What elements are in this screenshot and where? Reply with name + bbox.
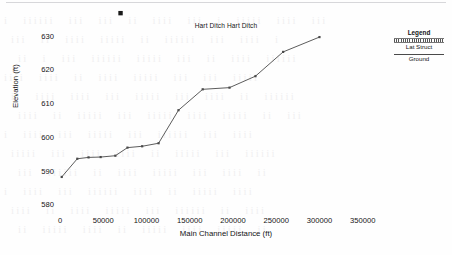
ground-data-point	[100, 156, 102, 158]
ground-data-point	[157, 142, 159, 144]
legend-entry-lat-struct: Lat Struct	[390, 38, 448, 51]
ground-data-point	[282, 51, 284, 53]
legend-label-ground: Ground	[390, 55, 448, 63]
ground-data-point	[254, 75, 256, 77]
ground-data-point	[177, 109, 179, 111]
ground-data-point	[61, 176, 63, 178]
ground-data-point	[141, 145, 143, 147]
legend-title: Legend	[390, 29, 448, 36]
chart-page: i iiiiii iii iii ii iiii iii i iiiii iii…	[0, 0, 452, 255]
legend-box: Legend Lat Struct Ground	[390, 29, 448, 64]
lat-struct-data-point	[118, 11, 122, 15]
ground-data-point	[114, 155, 116, 157]
legend-entry-ground: Ground	[390, 54, 448, 63]
ground-data-point	[87, 156, 89, 158]
ground-data-point	[76, 158, 78, 160]
line-chart: Hart Ditch Hart Ditch Elevation (ft) Mai…	[0, 0, 452, 255]
ground-data-point	[228, 87, 230, 89]
ground-data-point	[318, 36, 320, 38]
ground-data-point	[126, 147, 128, 149]
lat-struct-data-point-markers	[118, 11, 122, 15]
legend-label-lat-struct: Lat Struct	[390, 43, 448, 51]
ground-data-point	[202, 88, 204, 90]
series-lat-struct	[118, 11, 122, 15]
series-ground	[61, 36, 321, 178]
plot-series-svg	[0, 0, 452, 255]
ground-data-point-markers	[61, 36, 321, 178]
